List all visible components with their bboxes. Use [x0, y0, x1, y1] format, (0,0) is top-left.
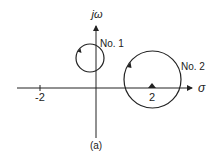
tick-label-minus-2: -2	[35, 91, 45, 103]
pole-triangle-marker-icon	[148, 83, 156, 88]
contour-no2-label: No. 2	[181, 61, 205, 72]
sigma-label: σ	[198, 81, 206, 95]
tick-label-2: 2	[149, 91, 155, 103]
jw-label: jω	[89, 8, 102, 20]
figure-caption: (a)	[90, 140, 102, 151]
s-plane-diagram: -2 2 σ jω No. 1 No. 2 (a)	[0, 0, 218, 162]
contour-no1-label: No. 1	[100, 38, 124, 49]
